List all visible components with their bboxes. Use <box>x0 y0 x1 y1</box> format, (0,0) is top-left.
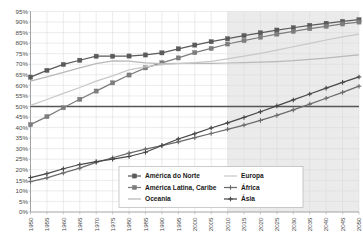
series-marker <box>111 54 115 58</box>
series-marker <box>61 106 65 110</box>
series-marker <box>242 33 246 37</box>
x-tick-label: 2020 <box>257 217 264 231</box>
series-marker <box>45 68 49 72</box>
series-marker <box>94 89 98 93</box>
series-marker <box>275 28 279 32</box>
y-tick-label: 5% <box>19 198 28 205</box>
x-tick-label: 1995 <box>175 217 182 231</box>
y-tick-label: 80% <box>16 39 29 46</box>
series-marker <box>275 32 279 36</box>
x-tick-label: 1955 <box>43 217 50 231</box>
x-tick-label: 2015 <box>240 217 247 231</box>
series-marker <box>258 35 262 39</box>
y-tick-label: 0% <box>19 208 28 215</box>
x-tick-label: 1965 <box>76 217 83 231</box>
series-marker <box>324 24 328 28</box>
x-tick-label: 2045 <box>339 217 346 231</box>
x-tick-label: 1990 <box>158 217 165 231</box>
series-marker <box>45 115 49 119</box>
y-tick-label: 75% <box>16 50 29 57</box>
series-marker <box>209 40 213 44</box>
chart-legend: América do NorteEuropaAmérica Latina, Ca… <box>119 167 303 208</box>
x-tick-label: 1970 <box>93 217 100 231</box>
series-marker <box>176 56 180 60</box>
series-marker <box>143 53 147 57</box>
series-marker <box>111 81 115 85</box>
y-tick-label: 60% <box>16 82 29 89</box>
y-tick-label: 25% <box>16 155 29 162</box>
line-chart: 0%5%10%15%20%25%30%35%40%45%50%55%60%65%… <box>0 0 363 247</box>
series-marker <box>28 75 32 79</box>
series-marker <box>226 37 230 41</box>
series-marker <box>160 51 164 55</box>
legend-swatch-marker <box>132 174 136 178</box>
series-marker <box>209 46 213 50</box>
y-tick-label: 65% <box>16 71 29 78</box>
x-tick-label: 2005 <box>207 217 214 231</box>
y-tick-label: 50% <box>16 103 29 110</box>
legend-label: Ásia <box>241 194 255 202</box>
series-marker <box>176 47 180 51</box>
legend-label: Europa <box>241 172 264 180</box>
legend-label: África <box>241 183 260 191</box>
y-tick-label: 10% <box>16 187 29 194</box>
series-marker <box>357 20 361 24</box>
series-marker <box>193 51 197 55</box>
legend-swatch-marker <box>132 185 136 189</box>
y-tick-label: 70% <box>16 60 29 67</box>
x-tick-label: 2025 <box>273 217 280 231</box>
series-marker <box>78 97 82 101</box>
legend-label: América Latina, Caribe <box>145 184 217 192</box>
y-tick-label: 85% <box>16 29 29 36</box>
y-tick-label: 55% <box>16 92 29 99</box>
series-marker <box>94 54 98 58</box>
y-tick-label: 45% <box>16 113 29 120</box>
series-marker <box>127 73 131 77</box>
series-marker <box>308 26 312 30</box>
series-marker <box>258 31 262 35</box>
y-tick-label: 30% <box>16 145 29 152</box>
series-marker <box>78 58 82 62</box>
series-marker <box>127 54 131 58</box>
x-tick-label: 2000 <box>191 217 198 231</box>
y-tick-label: 40% <box>16 124 29 131</box>
x-tick-label: 2050 <box>355 217 362 231</box>
x-tick-label: 1950 <box>27 217 34 231</box>
y-tick-label: 95% <box>16 8 29 15</box>
series-marker <box>340 22 344 26</box>
x-tick-label: 2030 <box>290 217 297 231</box>
series-marker <box>291 29 295 33</box>
x-tick-label: 1985 <box>142 217 149 231</box>
series-marker <box>61 62 65 66</box>
x-tick-label: 1975 <box>109 217 116 231</box>
series-marker <box>28 123 32 127</box>
legend-label: Oceania <box>145 195 171 202</box>
y-tick-label: 20% <box>16 166 29 173</box>
x-tick-label: 2035 <box>306 217 313 231</box>
x-tick-label: 1980 <box>125 217 132 231</box>
y-tick-label: 35% <box>16 134 29 141</box>
series-marker <box>226 42 230 46</box>
chart-container: 0%5%10%15%20%25%30%35%40%45%50%55%60%65%… <box>0 0 363 247</box>
x-tick-label: 2040 <box>322 217 329 231</box>
x-tick-label: 2010 <box>224 217 231 231</box>
legend-label: América do Norte <box>145 172 200 179</box>
y-tick-label: 15% <box>16 177 29 184</box>
y-tick-label: 90% <box>16 18 29 25</box>
x-tick-label: 1960 <box>60 217 67 231</box>
series-marker <box>193 43 197 47</box>
series-marker <box>242 39 246 43</box>
